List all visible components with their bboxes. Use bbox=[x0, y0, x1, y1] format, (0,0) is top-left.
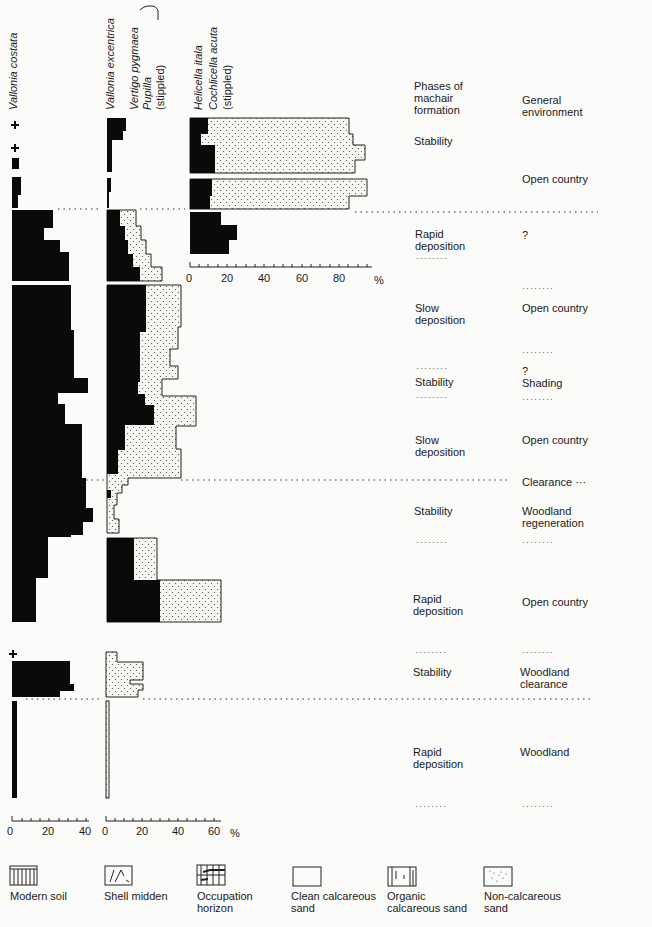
histogram-chart bbox=[0, 0, 652, 927]
legend-organic-calcareous-sand: Organic calcareous sand bbox=[387, 888, 467, 914]
separator-dots: ········ bbox=[522, 648, 554, 656]
legend-label: Shell midden bbox=[104, 890, 168, 902]
environment-label: Clearance ··· bbox=[522, 476, 586, 488]
separator-dots: ········ bbox=[522, 348, 554, 356]
excentrica-axis bbox=[106, 816, 221, 821]
legend-label: Occupation horizon bbox=[197, 890, 253, 914]
label-cochlicella-note: (stippled) bbox=[221, 65, 233, 110]
separator-dots: ········ bbox=[522, 802, 554, 810]
environment-header: General environment bbox=[522, 94, 583, 118]
label-pupilla: Pupilla bbox=[141, 77, 153, 110]
separator-dots: ········ bbox=[522, 284, 554, 292]
phase-label: Rapid deposition bbox=[415, 228, 465, 252]
environment-label: ? Shading bbox=[522, 365, 562, 389]
excentrica-tick-60: 60 bbox=[208, 825, 220, 837]
modern-soil-icon bbox=[10, 866, 37, 885]
separator-dots: ········ bbox=[416, 393, 448, 401]
label-vallonia-costata: Vallonia costata bbox=[7, 33, 19, 110]
helicella-axis bbox=[190, 262, 372, 267]
costata-tick-0: 0 bbox=[7, 825, 13, 837]
label-vallonia-excentrica: Vallonia excentrica bbox=[104, 18, 116, 110]
label-cochlicella-acuta: Cochlicella acuta bbox=[207, 27, 219, 110]
phases-header: Phases of machair formation bbox=[414, 80, 463, 116]
legend-label: Modern soil bbox=[10, 890, 67, 902]
legend-clean-calcareous-sand: Clean calcareous sand bbox=[291, 888, 376, 914]
legend-label: Organic calcareous sand bbox=[387, 890, 467, 914]
occupation-horizon-icon bbox=[197, 865, 225, 885]
helicella-tick-60: 60 bbox=[296, 272, 308, 284]
environment-label: Open country bbox=[522, 434, 588, 446]
organic-calcareous-sand-icon bbox=[388, 867, 416, 886]
separator-dots: ········ bbox=[416, 538, 448, 546]
legend-shell-midden: Shell midden bbox=[104, 888, 168, 902]
costata-axis bbox=[12, 816, 89, 821]
separator-dots: ········ bbox=[416, 364, 448, 372]
environment-label: Open country bbox=[522, 302, 588, 314]
non-calcareous-sand-icon bbox=[484, 867, 512, 886]
clean-calcareous-sand-icon bbox=[293, 867, 321, 886]
helicella-tick-40: 40 bbox=[258, 272, 270, 284]
phase-label: Stability bbox=[415, 376, 454, 388]
helicella-tick-0: 0 bbox=[186, 272, 192, 284]
environment-label: Woodland bbox=[520, 746, 569, 758]
helicella-cochlicella-bars bbox=[190, 118, 367, 254]
excentrica-tick-40: 40 bbox=[172, 825, 184, 837]
environment-label: Open country bbox=[522, 173, 588, 185]
legend-label: Clean calcareous sand bbox=[291, 890, 376, 914]
label-helicella-itala: Helicella itala bbox=[192, 45, 204, 110]
phase-label: Slow deposition bbox=[415, 302, 465, 326]
helicella-unit: % bbox=[374, 274, 384, 286]
label-vertigo-pygmaea: Vertigo pygmaea bbox=[128, 27, 140, 110]
legend-modern-soil: Modern soil bbox=[10, 888, 67, 902]
excentrica-unit: % bbox=[230, 827, 240, 839]
phase-label: Rapid deposition bbox=[413, 593, 463, 617]
excentrica-tick-20: 20 bbox=[136, 825, 148, 837]
phase-label: Stability bbox=[414, 135, 453, 147]
phase-label: Stability bbox=[413, 666, 452, 678]
separator-dots: ········ bbox=[522, 395, 554, 403]
vallonia-costata-bars bbox=[12, 158, 93, 798]
separator-dots: ········ bbox=[522, 538, 554, 546]
legend-non-calcareous-sand: Non-calcareous sand bbox=[484, 888, 561, 914]
excentrica-tick-0: 0 bbox=[102, 825, 108, 837]
shell-midden-icon bbox=[105, 866, 132, 885]
legend-label: Non-calcareous sand bbox=[484, 890, 561, 914]
phase-label: Stability bbox=[414, 505, 453, 517]
helicella-tick-80: 80 bbox=[333, 272, 345, 284]
phase-label: Rapid deposition bbox=[413, 746, 463, 770]
costata-tick-20: 20 bbox=[42, 825, 54, 837]
helicella-tick-20: 20 bbox=[221, 272, 233, 284]
phase-label: Slow deposition bbox=[415, 434, 465, 458]
separator-dots: ········ bbox=[416, 254, 448, 262]
costata-tick-40: 40 bbox=[79, 825, 91, 837]
separator-dots: ········ bbox=[415, 802, 447, 810]
separator-dots: ········ bbox=[415, 648, 447, 656]
bracket-icon bbox=[140, 6, 158, 20]
environment-label: ? bbox=[522, 229, 528, 241]
legend-occupation-horizon: Occupation horizon bbox=[197, 888, 253, 914]
environment-label: Woodland regeneration bbox=[522, 505, 584, 529]
environment-label: Open country bbox=[522, 596, 588, 608]
environment-label: Woodland clearance bbox=[520, 666, 569, 690]
label-pupilla-note: (stippled) bbox=[154, 65, 166, 110]
